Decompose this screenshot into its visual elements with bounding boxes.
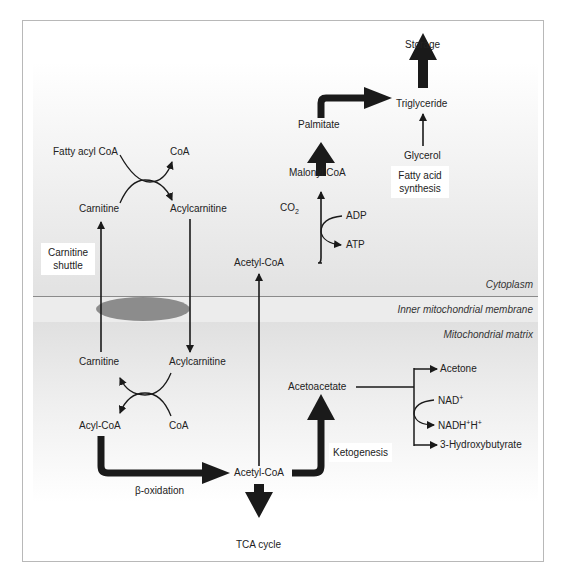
acylcarnitine-top-label: Acylcarnitine: [170, 203, 227, 214]
carnitine-top-label: Carnitine: [79, 203, 119, 214]
atp-label: ATP: [346, 239, 365, 250]
fatty-acid-synthesis-box: Fatty acid synthesis: [391, 166, 449, 198]
fatty-acyl-coa-label: Fatty acyl CoA: [53, 146, 118, 157]
cytoplasm-label: Cytoplasm: [486, 279, 533, 290]
acetoacetate-label: Acetoacetate: [288, 381, 346, 392]
storage-label: Storage: [405, 39, 440, 50]
ketogenesis-box: Ketogenesis: [329, 443, 392, 462]
beta-oxidation-label: β-oxidation: [135, 485, 184, 496]
palmitate-label: Palmitate: [298, 119, 340, 130]
acetone-label: Acetone: [440, 363, 477, 374]
pathway-arrows: [0, 0, 569, 582]
adp-label: ADP: [346, 210, 367, 221]
triglyceride-label: Triglyceride: [396, 98, 447, 109]
nadh-label: NADH+H+: [438, 419, 482, 431]
malonyl-coa-label: Malonyl CoA: [289, 167, 346, 178]
acylcarnitine-bottom-label: Acylcarnitine: [169, 356, 226, 367]
tca-cycle-label: TCA cycle: [236, 539, 281, 550]
carnitine-shuttle-box: Carnitine shuttle: [41, 243, 95, 275]
carnitine-shuttle-line2: shuttle: [45, 259, 91, 272]
fatty-acid-synthesis-line2: synthesis: [395, 182, 445, 195]
acyl-coa-label: Acyl-CoA: [79, 420, 121, 431]
fatty-acid-synthesis-line1: Fatty acid: [395, 169, 445, 182]
carnitine-bottom-label: Carnitine: [79, 356, 119, 367]
acetyl-coa-bottom-label: Acetyl-CoA: [234, 467, 284, 478]
carnitine-shuttle-line1: Carnitine: [45, 246, 91, 259]
nad-label: NAD+: [438, 394, 463, 406]
co2-label: CO2: [280, 202, 299, 215]
matrix-label: Mitochondrial matrix: [444, 329, 533, 340]
hydroxybutyrate-label: 3-Hydroxybutyrate: [440, 439, 522, 450]
glycerol-label: Glycerol: [404, 150, 441, 161]
membrane-label: Inner mitochondrial membrane: [397, 304, 533, 315]
carnitine-transporter-icon: [96, 297, 190, 321]
acetyl-coa-top-label: Acetyl-CoA: [234, 257, 284, 268]
coa-bottom-label: CoA: [169, 420, 188, 431]
coa-top-label: CoA: [170, 146, 189, 157]
